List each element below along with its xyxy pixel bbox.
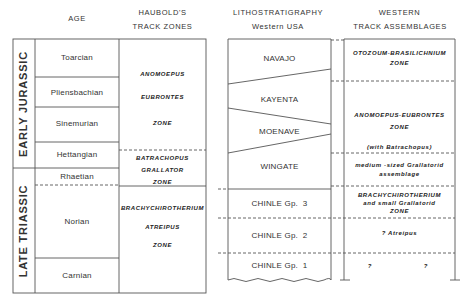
haubold-zone-grallator: GRALLATOR <box>119 167 206 173</box>
western-anomoepus-eubrontes-zone: ZONE <box>344 124 455 130</box>
western-small-grallatorid: and small Grallatorid <box>344 200 455 206</box>
age-pliensbachian: Pliensbachian <box>35 88 119 97</box>
western-with-batrachopus: (with Batrachopus) <box>344 144 455 150</box>
litho-navajo: NAVAJO <box>228 54 331 63</box>
epoch-late-triassic: LATE TRIASSIC <box>17 171 31 291</box>
haubold-zone-anomoepus: ANOMOEPUS <box>119 71 206 77</box>
litho-chinle-2: CHINLE Gp. 2 <box>228 231 331 240</box>
haubold-zone-batrachopus: BATRACHOPUS <box>119 155 206 161</box>
western-otozoum: OTOZOUM-BRASILICHNIUM <box>344 50 455 56</box>
haubold-zone-eubrontes: EUBRONTES <box>119 94 206 100</box>
western-medium-grallatorid: medium -sized Grallatorid <box>344 162 455 168</box>
header-haubold-line2: TRACK ZONES <box>119 22 206 31</box>
western-question-left: ? <box>360 263 380 269</box>
header-western-line1: WESTERN <box>344 8 455 17</box>
litho-chinle-1: CHINLE Gp. 1 <box>228 261 331 270</box>
age-rhaetian: Rhaetian <box>35 172 119 181</box>
litho-chinle-3: CHINLE Gp. 3 <box>228 199 331 208</box>
age-toarcian: Toarcian <box>35 53 119 62</box>
western-question-right: ? <box>416 263 436 269</box>
litho-moenave: MOENAVE <box>228 127 331 136</box>
header-western-line2: TRACK ASSEMBLAGES <box>340 22 460 31</box>
haubold-zone-anomoepus-zone: ZONE <box>119 120 206 126</box>
haubold-zone-brachy-zone: ZONE <box>119 242 206 248</box>
age-sinemurian: Sinemurian <box>35 119 119 128</box>
header-litho-line1: LITHOSTRATIGRAPHY <box>218 8 338 17</box>
litho-wingate: WINGATE <box>228 162 331 171</box>
haubold-zone-atreipus: ATREIPUS <box>119 224 206 230</box>
haubold-zone-batrachopus-zone: ZONE <box>119 179 206 185</box>
header-age: AGE <box>35 14 119 23</box>
header-haubold-line1: HAUBOLD'S <box>119 8 206 17</box>
age-carnian: Carnian <box>35 271 119 280</box>
western-medium-assemblage: assemblage <box>344 171 455 177</box>
haubold-zone-brachychirotherium: BRACHYCHIROTHERIUM <box>119 205 206 211</box>
western-atreipus: ? Atreipus <box>344 230 455 236</box>
litho-kayenta: KAYENTA <box>228 95 331 104</box>
epoch-early-jurassic: EARLY JURASSIC <box>17 39 31 169</box>
western-otozoum-zone: ZONE <box>344 60 455 66</box>
header-litho-line2: Western USA <box>218 22 338 31</box>
western-brachychirotherium: BRACHYCHIROTHERIUM <box>344 192 455 198</box>
age-norian: Norian <box>35 217 119 226</box>
western-anomoepus-eubrontes: ANOMOEPUS-EUBRONTES <box>344 112 455 118</box>
age-hettangian: Hettangian <box>35 150 119 159</box>
western-brachy-zone: ZONE <box>344 208 455 214</box>
